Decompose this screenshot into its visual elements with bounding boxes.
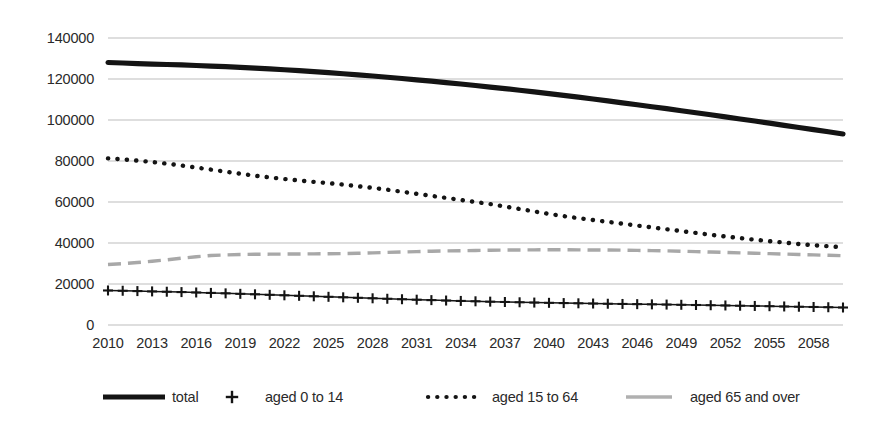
chart-canvas: 020000400006000080000100000120000140000 … xyxy=(0,0,872,436)
legend-label: aged 0 to 14 xyxy=(265,389,343,405)
x-axis-tick-label: 2016 xyxy=(180,335,212,351)
x-axis-tick-label: 2049 xyxy=(666,335,698,351)
y-axis-tick-label: 20000 xyxy=(55,276,94,292)
population-projection-chart: 020000400006000080000100000120000140000 … xyxy=(0,0,872,436)
x-axis-tick-label: 2010 xyxy=(92,335,124,351)
legend-label: total xyxy=(172,389,198,405)
y-axis-tick-label: 60000 xyxy=(55,194,94,210)
x-axis-tick-label: 2037 xyxy=(489,335,521,351)
x-axis-tick-label: 2022 xyxy=(269,335,301,351)
x-axis-tick-label: 2040 xyxy=(533,335,565,351)
x-axis-tick-label: 2055 xyxy=(754,335,786,351)
legend-label: aged 15 to 64 xyxy=(492,389,578,405)
y-axis-tick-label: 100000 xyxy=(47,112,94,128)
x-axis-tick-label: 2028 xyxy=(357,335,389,351)
y-axis-tick-label: 140000 xyxy=(47,30,94,46)
x-axis-tick-label: 2013 xyxy=(136,335,168,351)
y-axis-tick-label: 80000 xyxy=(55,153,94,169)
x-axis-tick-label: 2031 xyxy=(401,335,433,351)
x-axis-tick-label: 2034 xyxy=(445,335,477,351)
y-axis-tick-label: 40000 xyxy=(55,235,94,251)
x-axis-tick-label: 2025 xyxy=(313,335,345,351)
x-axis-tick-labels: 2010201320162019202220252028203120342037… xyxy=(92,335,829,351)
x-axis-tick-label: 2052 xyxy=(710,335,742,351)
y-axis-tick-label: 120000 xyxy=(47,71,94,87)
x-axis-tick-label: 2058 xyxy=(798,335,830,351)
legend-label: aged 65 and over xyxy=(690,389,800,405)
x-axis-tick-label: 2046 xyxy=(621,335,653,351)
x-axis-tick-label: 2043 xyxy=(577,335,609,351)
x-axis-tick-label: 2019 xyxy=(225,335,257,351)
y-axis-tick-label: 0 xyxy=(86,317,94,333)
